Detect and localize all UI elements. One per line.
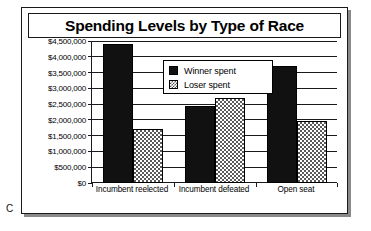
y-axis-tick-label: $500,000 [54,163,86,172]
y-axis-tick [88,104,92,105]
figure-caption-letter: C [6,203,13,214]
legend-item-winner: Winner spent [169,64,267,77]
legend-label-winner: Winner spent [184,66,236,76]
y-axis-tick [88,41,92,42]
legend-swatch-loser-icon [169,80,178,89]
y-axis-tick-label: $2,500,000 [48,100,86,109]
y-axis-tick-label: $1,000,000 [48,147,86,156]
y-axis-tick-label: $3,000,000 [48,84,86,93]
y-axis-tick [88,88,92,89]
y-axis-tick [88,151,92,152]
chart-legend: Winner spent Loser spent [163,60,273,94]
chart-frame: Spending Levels by Type of Race $0$500,0… [21,7,348,214]
x-axis-category-label: Open seat [255,185,337,195]
bar-winner-2 [185,106,215,183]
y-axis-tick [88,135,92,136]
legend-item-loser: Loser spent [169,78,267,91]
y-axis-tick-label: $4,500,000 [48,37,86,46]
y-gridline [92,41,337,42]
legend-label-loser: Loser spent [184,80,230,90]
y-axis-tick-label: $4,000,000 [48,52,86,61]
plot-region: $0$500,000$1,000,000$1,500,000$2,000,000… [28,41,341,209]
legend-swatch-winner-icon [169,66,178,75]
x-axis-labels: Incumbent reelectedIncumbent defeatedOpe… [91,185,337,209]
y-axis-labels: $0$500,000$1,000,000$1,500,000$2,000,000… [28,41,90,183]
y-axis-tick [88,72,92,73]
x-axis-category-label: Incumbent defeated [173,185,255,195]
y-axis-tick [88,56,92,57]
bar-loser-2 [215,98,245,183]
bar-loser-1 [133,129,163,183]
page-title: Spending Levels by Type of Race [65,17,304,35]
y-axis-tick-label: $0 [78,179,87,188]
y-axis-tick-label: $3,500,000 [48,68,86,77]
x-axis-tick [337,183,338,187]
y-axis-tick [88,119,92,120]
x-axis-category-label: Incumbent reelected [91,185,173,195]
y-axis-tick [88,167,92,168]
bar-loser-3 [297,121,327,183]
bar-winner-1 [103,44,133,183]
y-axis-tick-label: $1,500,000 [48,131,86,140]
y-axis-tick-label: $2,000,000 [48,115,86,124]
chart-title-band: Spending Levels by Type of Race [28,13,341,38]
